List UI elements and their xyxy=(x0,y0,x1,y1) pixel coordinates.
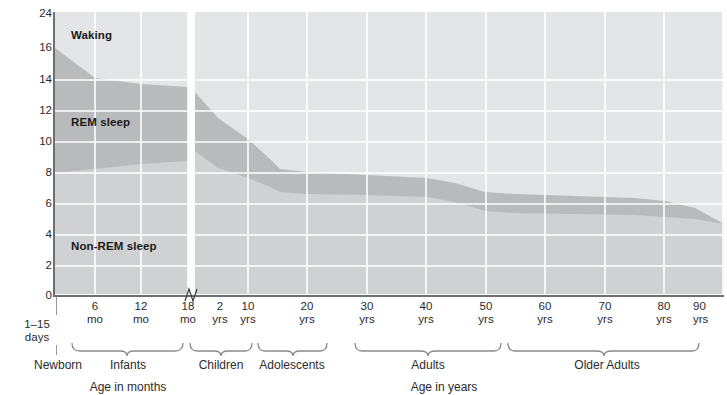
x-tick-2yrs: 2 yrs xyxy=(170,300,222,326)
y-tick-14: 14 xyxy=(26,74,52,86)
y-tick-0: 0 xyxy=(26,290,52,302)
x-tick-70yrs: 70 yrs xyxy=(579,300,631,326)
x-tick-20yrs: 20 yrs xyxy=(281,300,333,326)
y-tick-12: 12 xyxy=(26,105,52,117)
x-tick-40yrs: 40 yrs xyxy=(400,300,452,326)
y-axis-ticks: 24 16 14 12 10 8 6 4 2 0 xyxy=(24,0,52,300)
y-tick-8: 8 xyxy=(26,167,52,179)
x-tick-50yrs: 50 yrs xyxy=(460,300,512,326)
y-tick-10: 10 xyxy=(26,136,52,148)
bracket-label-children: Children xyxy=(180,358,262,372)
x-axis-spine xyxy=(53,295,724,297)
bracket-label-adults: Adults xyxy=(387,358,469,372)
y-tick-16: 16 xyxy=(26,42,52,54)
y-tick-6: 6 xyxy=(26,198,52,210)
x-tick-12mo: 12 mo xyxy=(115,300,167,326)
y-tick-4: 4 xyxy=(26,229,52,241)
sleep-lifespan-chart: Total daily sleep (hours) 24 16 14 12 10… xyxy=(0,0,727,395)
band-label-non-rem: Non-REM sleep xyxy=(71,240,157,252)
y-tick-24: 24 xyxy=(26,8,52,20)
newborn-tick-line xyxy=(56,297,57,315)
band-label-waking: Waking xyxy=(71,29,112,41)
x-tick-90yrs: 90 yrs xyxy=(693,300,727,326)
x-tick-30yrs: 30 yrs xyxy=(341,300,393,326)
x-tick-80yrs: 80 yrs xyxy=(638,300,690,326)
x-axis-break-gap xyxy=(188,12,195,294)
x-axis-title-years: Age in years xyxy=(398,380,490,394)
x-tick-10yrs: 10 yrs xyxy=(222,300,274,326)
band-label-rem: REM sleep xyxy=(71,116,130,128)
y-tick-2: 2 xyxy=(26,260,52,272)
plot-area: Waking REM sleep Non-REM sleep xyxy=(55,12,724,294)
x-tick-60yrs: 60 yrs xyxy=(519,300,571,326)
bracket-label-older-adults: Older Adults xyxy=(562,358,652,372)
x-axis-title-months: Age in months xyxy=(82,380,174,394)
bracket-label-adolescents: Adolescents xyxy=(251,358,333,372)
bracket-label-infants: Infants xyxy=(87,358,169,372)
x-tick-6mo: 6 mo xyxy=(69,300,121,326)
